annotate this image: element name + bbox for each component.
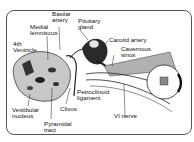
label-basilar-artery: Basilar artery [52, 11, 71, 24]
label-cavernous-sinus: Cavernous sinus [121, 46, 151, 59]
label-clivus: Clivus [60, 106, 77, 112]
label-pituitary-gland: Pituitary gland [78, 18, 100, 31]
label-fourth-ventricle: 4th Ventricle [13, 41, 37, 54]
label-vi-nerve: VI nerve [114, 113, 137, 119]
label-carotid-artery: Carotid artery [109, 37, 146, 43]
label-vestibular-nucleus: Vestibular nucleus [12, 107, 39, 120]
label-petroclinoid-ligament: Petroclinoid ligament [77, 89, 109, 102]
label-pyramidal-tract: Pyramidal tract [44, 121, 72, 134]
label-medial-lemniscus: Medial lemniscus [30, 24, 58, 37]
